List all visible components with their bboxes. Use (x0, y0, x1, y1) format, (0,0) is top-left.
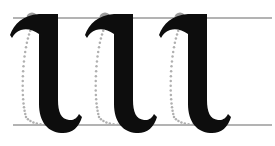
path-dot (170, 94, 173, 97)
path-dot (173, 46, 176, 49)
path-dot (95, 70, 98, 73)
path-dot (173, 116, 176, 119)
path-dot (24, 51, 27, 54)
path-dot (98, 116, 101, 119)
path-dot (99, 42, 102, 45)
path-dot (100, 37, 103, 40)
path-dot (94, 89, 97, 92)
path-dot (172, 113, 175, 116)
path-dot (25, 46, 28, 49)
path-dot (95, 102, 98, 105)
path-dot (95, 94, 98, 97)
path-dot (105, 121, 108, 124)
path-dot (28, 33, 31, 36)
path-dot (23, 110, 26, 113)
path-dot (177, 29, 180, 32)
path-dot (96, 110, 99, 113)
diagram-canvas (0, 0, 275, 146)
path-dot (94, 85, 97, 88)
path-dot (21, 80, 24, 83)
path-dot (22, 65, 25, 68)
path-dot (109, 122, 112, 125)
path-dot (36, 122, 39, 125)
path-dot (172, 51, 175, 54)
path-dot (170, 98, 173, 101)
path-dot (170, 102, 173, 105)
path-dot (184, 122, 187, 125)
path-dot (171, 106, 174, 109)
path-dot (21, 89, 24, 92)
letterform-group (10, 14, 231, 133)
path-dot (174, 42, 177, 45)
path-dot (97, 51, 100, 54)
path-dot (101, 33, 104, 36)
path-dot (39, 123, 42, 126)
path-dot (27, 37, 30, 40)
path-dot (29, 120, 32, 123)
path-dot (94, 80, 97, 83)
path-dot (26, 42, 29, 45)
path-dot (23, 55, 26, 58)
path-dot (96, 106, 99, 109)
path-dot (170, 75, 173, 78)
path-dot (22, 70, 25, 73)
path-dot (176, 33, 179, 36)
path-dot (32, 121, 35, 124)
path-dot (21, 85, 24, 88)
path-dot (100, 118, 103, 121)
calligraphy-stroke-diagram (0, 0, 275, 146)
path-dot (96, 55, 99, 58)
path-dot (102, 29, 105, 32)
path-dot (22, 102, 25, 105)
path-dot (97, 113, 100, 116)
path-dot (22, 75, 25, 78)
path-dot (24, 113, 27, 116)
path-dot (175, 118, 178, 121)
path-dot (169, 85, 172, 88)
path-dot (177, 120, 180, 123)
path-dot (180, 121, 183, 124)
path-dot (175, 37, 178, 40)
path-dot (95, 98, 98, 101)
path-dot (102, 120, 105, 123)
path-dot (169, 80, 172, 83)
path-dot (27, 118, 30, 121)
path-dot (95, 65, 98, 68)
path-dot (187, 123, 190, 126)
path-dot (171, 110, 174, 113)
path-dot (22, 98, 25, 101)
path-dot (170, 70, 173, 73)
path-dot (170, 65, 173, 68)
path-dot (171, 55, 174, 58)
path-dot (96, 60, 99, 63)
path-dot (112, 123, 115, 126)
path-dot (23, 106, 26, 109)
path-dot (22, 94, 25, 97)
path-dot (169, 89, 172, 92)
path-dot (116, 124, 119, 127)
path-dot (98, 46, 101, 49)
path-dot (23, 60, 26, 63)
path-dot (95, 75, 98, 78)
path-dot (25, 116, 28, 119)
path-dot (171, 60, 174, 63)
